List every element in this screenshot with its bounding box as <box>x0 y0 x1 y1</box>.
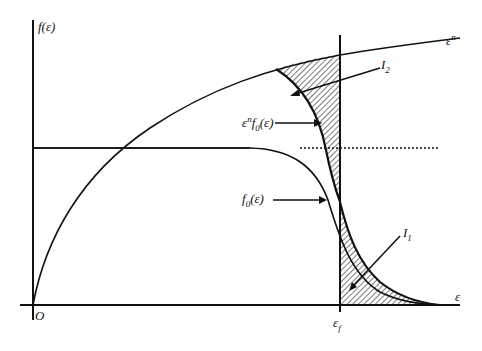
arrow-fermi-curve <box>273 196 327 204</box>
origin-label: O <box>35 309 44 322</box>
diagram-canvas <box>0 0 482 351</box>
region-i2-label: I2 <box>381 58 390 75</box>
product-curve-label: εnf0(ε) <box>242 115 274 133</box>
power-curve-label: εn <box>446 33 456 47</box>
x-axis-label: ε <box>455 290 460 303</box>
fermi-curve-label: f0(ε) <box>242 192 264 209</box>
y-axis-label: f(ε) <box>38 20 55 33</box>
fermi-energy-label: εf <box>333 316 341 333</box>
region-i1-label: I1 <box>403 226 412 243</box>
power-curve <box>33 38 460 305</box>
arrow-product-curve <box>275 119 322 127</box>
